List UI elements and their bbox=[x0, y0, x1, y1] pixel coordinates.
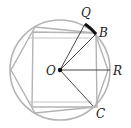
label-C: C bbox=[96, 107, 105, 121]
geometry-diagram: Q B O R C bbox=[0, 0, 131, 128]
label-R: R bbox=[112, 64, 122, 78]
segment-OB bbox=[60, 34, 96, 70]
label-B: B bbox=[98, 26, 108, 40]
label-O: O bbox=[46, 64, 56, 78]
label-Q: Q bbox=[81, 6, 91, 20]
center-point-O bbox=[58, 68, 62, 72]
segment-OC bbox=[60, 70, 93, 106]
